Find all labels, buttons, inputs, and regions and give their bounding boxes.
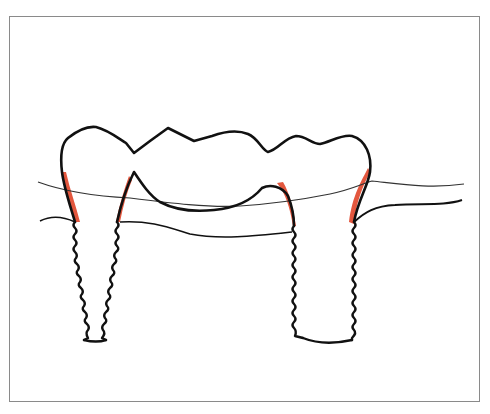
bone-crest-line-middle [120, 222, 292, 237]
left-implant [74, 222, 119, 342]
left-implant-distal-threads [102, 222, 119, 340]
left-implant-apex [84, 340, 106, 342]
gingival-line [38, 181, 464, 206]
implant-bridge-illustration [0, 0, 490, 414]
pontic-underside [117, 172, 294, 226]
left-implant-mesial-threads [74, 222, 89, 340]
highlight-left-mesial [62, 172, 80, 222]
right-implant-apex [303, 338, 352, 343]
right-implant-mesial-threads [293, 226, 304, 338]
bone-crest-line-right [354, 200, 462, 222]
bone-crest-line-left [40, 217, 75, 222]
right-implant [293, 222, 356, 343]
right-implant-distal-threads [352, 222, 356, 340]
highlight-right-distal [349, 168, 370, 224]
bridge-crown-outline [61, 127, 370, 222]
